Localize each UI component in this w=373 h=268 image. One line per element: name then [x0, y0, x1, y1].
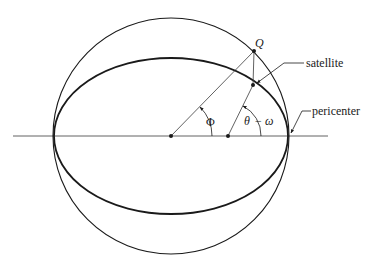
focus-point — [226, 134, 230, 138]
center-point — [169, 134, 173, 138]
orbit-diagram: Q satellite pericenter Φ θ − ω — [0, 0, 373, 268]
phi-label: Φ — [206, 115, 215, 129]
satellite-leader-line — [257, 63, 304, 83]
pericenter-label: pericenter — [312, 104, 360, 118]
minus-label: − — [255, 114, 262, 128]
theta-label: θ — [244, 114, 250, 128]
satellite-label: satellite — [306, 56, 343, 70]
q-label: Q — [255, 36, 264, 50]
pericenter-leader-line — [291, 111, 311, 133]
omega-label: ω — [265, 114, 273, 128]
satellite-point — [251, 83, 255, 87]
